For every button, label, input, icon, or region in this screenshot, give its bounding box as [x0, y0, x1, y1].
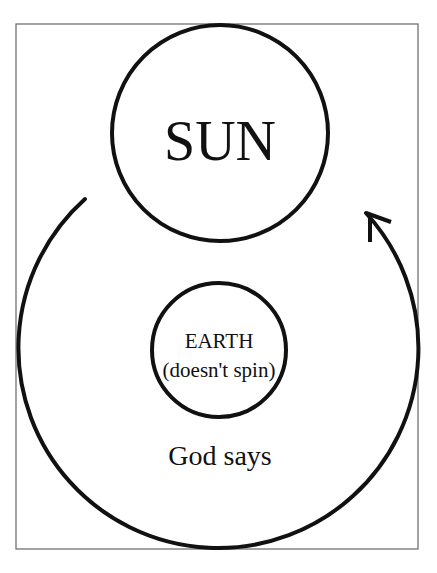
earth-sublabel: (doesn't spin) — [163, 358, 276, 382]
sun-label: SUN — [164, 110, 276, 172]
caption-god-says: God says — [168, 440, 271, 471]
geocentric-diagram: SUN EARTH (doesn't spin) God says — [0, 0, 437, 573]
earth-label: EARTH — [185, 329, 254, 353]
